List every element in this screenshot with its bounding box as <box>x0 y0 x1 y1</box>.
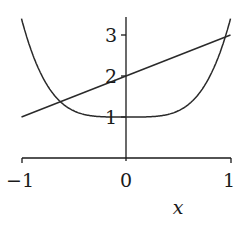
x-tick-label: 1 <box>223 169 235 191</box>
y-tick-label: 3 <box>105 24 117 46</box>
x-tick-label: 0 <box>120 169 132 191</box>
y-tick-label: 1 <box>105 106 117 128</box>
x-axis-title: x <box>173 196 184 218</box>
x-tick-label: −1 <box>6 169 34 191</box>
y-axis <box>121 17 126 161</box>
y-tick-label: 2 <box>105 65 117 87</box>
chart: −1 0 1 1 2 3 x <box>0 0 248 231</box>
